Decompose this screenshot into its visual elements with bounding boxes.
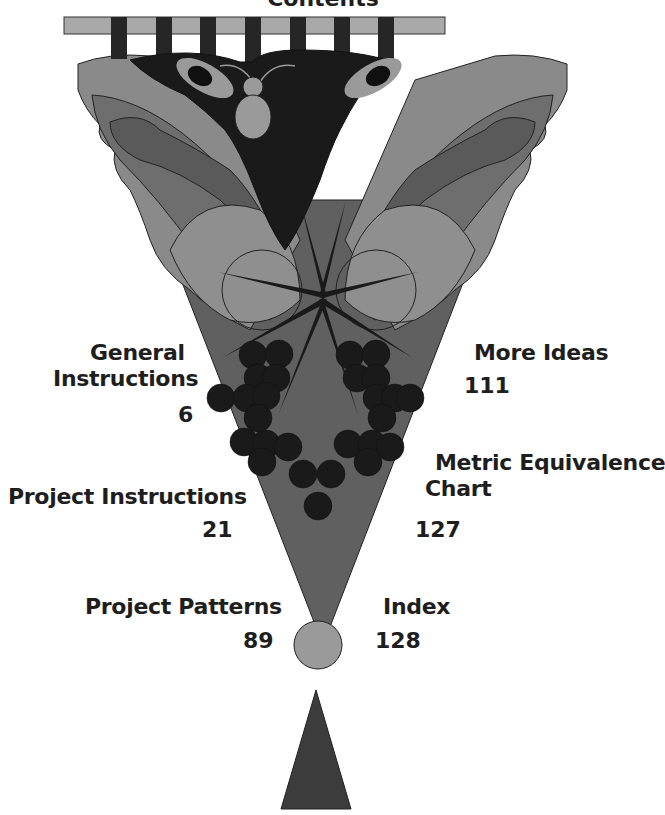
toc-label: More Ideas [474, 340, 608, 366]
toc-entry-general-instructions[interactable]: General Instructions [88, 340, 198, 392]
toc-label: Instructions [53, 366, 198, 392]
toc-entry-project-patterns[interactable]: Project Patterns [85, 594, 282, 620]
toc-label: Index [383, 594, 450, 620]
toc-entry-more-ideas[interactable]: More Ideas [474, 340, 608, 366]
toc-page-general-instructions[interactable]: 6 [178, 402, 193, 428]
toc-entry-project-instructions[interactable]: Project Instructions [8, 484, 247, 510]
toc-label: Metric Equivalence [435, 450, 665, 476]
toc-page-metric-equivalence-chart[interactable]: 127 [415, 517, 461, 543]
toc-label: General [88, 340, 198, 366]
tassel-bead [294, 621, 342, 669]
butterfly-head [243, 77, 263, 97]
toc-label: Chart [425, 476, 665, 502]
toc-entry-index[interactable]: Index [383, 594, 450, 620]
butterfly-body [235, 95, 271, 139]
toc-page-project-patterns[interactable]: 89 [243, 628, 274, 654]
toc-page-project-instructions[interactable]: 21 [202, 517, 233, 543]
toc-page-index[interactable]: 128 [375, 628, 421, 654]
tassel-cone [281, 690, 351, 809]
toc-page-more-ideas[interactable]: 111 [464, 373, 510, 399]
toc-label: Project Patterns [85, 594, 282, 620]
toc-entry-metric-equivalence-chart[interactable]: Metric Equivalence Chart [435, 450, 665, 502]
toc-label: Project Instructions [8, 484, 247, 510]
